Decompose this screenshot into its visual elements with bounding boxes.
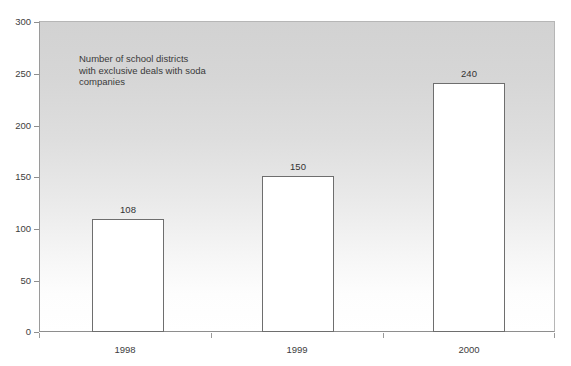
y-tick-label-0: 0 — [26, 327, 31, 337]
y-tick-label-50: 50 — [20, 276, 31, 286]
x-tick-mark-2 — [383, 333, 384, 338]
y-tick-label-300: 300 — [15, 17, 31, 27]
x-tick-mark-1 — [211, 333, 212, 338]
bar-2000[interactable] — [433, 83, 505, 332]
x-tick-label-2000: 2000 — [458, 344, 479, 355]
y-tick-label-100: 100 — [15, 224, 31, 234]
bar-chart: 300 250 200 150 100 50 0 108 150 240 199… — [0, 0, 571, 366]
bar-value-1999: 150 — [290, 161, 306, 172]
bar-value-1998: 108 — [120, 204, 136, 215]
bar-value-2000: 240 — [461, 68, 477, 79]
y-tick-mark-50 — [34, 281, 39, 282]
x-tick-label-1999: 1999 — [286, 344, 307, 355]
y-tick-label-200: 200 — [15, 121, 31, 131]
y-axis: 300 250 200 150 100 50 0 — [0, 0, 39, 366]
x-axis: 1998 1999 2000 — [39, 344, 555, 360]
x-tick-label-1998: 1998 — [114, 344, 135, 355]
y-tick-mark-250 — [34, 74, 39, 75]
y-tick-label-150: 150 — [15, 172, 31, 182]
y-tick-mark-300 — [34, 22, 39, 23]
bar-1998[interactable] — [92, 219, 164, 332]
y-tick-label-250: 250 — [15, 69, 31, 79]
y-tick-mark-200 — [34, 126, 39, 127]
series-description-annotation: Number of school districts with exclusiv… — [79, 53, 206, 88]
x-tick-mark-start — [39, 333, 40, 338]
x-tick-mark-end — [554, 333, 555, 338]
y-tick-mark-150 — [34, 177, 39, 178]
bar-1999[interactable] — [262, 176, 334, 332]
y-tick-mark-100 — [34, 229, 39, 230]
